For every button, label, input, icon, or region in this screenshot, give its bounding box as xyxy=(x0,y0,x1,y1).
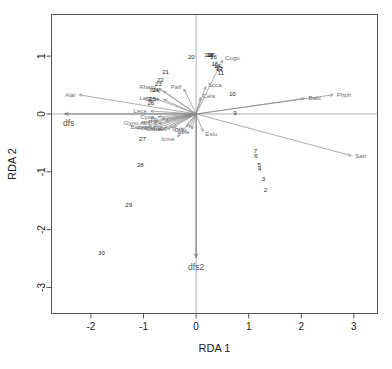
species-label: Alal xyxy=(65,91,75,98)
site-label: 28 xyxy=(137,161,144,168)
site-label: 29 xyxy=(125,201,132,208)
site-label: 19 xyxy=(204,51,211,58)
constraint-label: dfs xyxy=(63,118,74,128)
species-arrow xyxy=(163,91,196,114)
species-label: Icme xyxy=(161,135,175,142)
site-label: 10 xyxy=(229,90,236,97)
site-label: 26 xyxy=(147,99,154,106)
x-tick-label: 2 xyxy=(298,321,304,332)
plot-canvas: -2-1012310-1-2-3 AlalPhphBablSatrCogoScc… xyxy=(0,0,392,369)
site-label: 27 xyxy=(139,135,146,142)
site-label: 7 xyxy=(254,147,258,154)
species-label: Satr xyxy=(355,152,366,159)
species-label: Pafl xyxy=(171,83,182,90)
species-arrows xyxy=(79,60,351,156)
species-arrow xyxy=(196,114,203,131)
species-label: Phph xyxy=(337,91,352,98)
site-label: 9 xyxy=(233,109,237,116)
x-tick-label: 3 xyxy=(351,321,357,332)
y-tick-label: -3 xyxy=(36,283,47,292)
x-tick-label: -2 xyxy=(86,321,95,332)
species-label: Lele xyxy=(178,128,190,135)
site-label: 5 xyxy=(257,161,261,168)
y-tick-label: -1 xyxy=(36,167,47,176)
site-label: 24 xyxy=(152,86,159,93)
site-label: 2 xyxy=(264,186,268,193)
rda-biplot: -2-1012310-1-2-3 AlalPhphBablSatrCogoScc… xyxy=(0,0,392,369)
y-axis-title: RDA 2 xyxy=(6,148,18,180)
constraint-labels: dfsdfs2 xyxy=(63,118,204,272)
site-label: 30 xyxy=(98,249,105,256)
x-axis-title: RDA 1 xyxy=(199,342,231,354)
site-label: 20 xyxy=(188,53,195,60)
x-tick-label: -1 xyxy=(139,321,148,332)
site-labels: 1234567910111213141516171819202122232425… xyxy=(98,51,268,256)
site-label: 3 xyxy=(262,175,266,182)
species-label: Cela xyxy=(202,92,215,99)
species-arrow xyxy=(196,114,351,156)
species-label: Cogo xyxy=(225,54,240,61)
species-label: Sqce xyxy=(156,124,171,131)
species-label: Eslu xyxy=(205,130,218,137)
y-tick-label: 0 xyxy=(36,111,47,117)
site-label: 21 xyxy=(162,68,169,75)
constraint-label: dfs2 xyxy=(188,262,204,272)
y-tick-label: -2 xyxy=(36,225,47,234)
species-arrow xyxy=(196,98,304,114)
x-tick-label: 1 xyxy=(246,321,252,332)
y-tick-label: 1 xyxy=(36,53,47,59)
x-tick-label: 0 xyxy=(193,321,199,332)
species-label: Scca xyxy=(208,81,222,88)
species-label: Babl xyxy=(308,94,320,101)
species-arrow xyxy=(163,100,196,114)
site-label: 15 xyxy=(212,60,219,67)
